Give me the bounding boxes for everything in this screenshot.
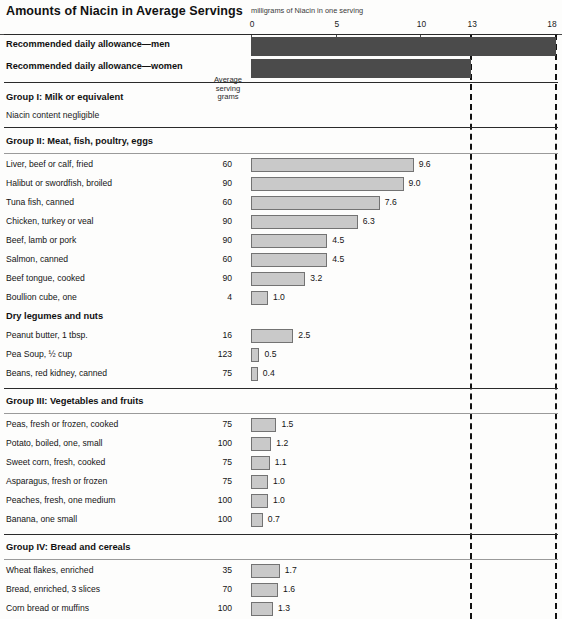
- rda-row: Recommended daily allowance—men: [0, 36, 562, 58]
- row-label: Liver, beef or calf, fried: [6, 159, 93, 169]
- row-bar: [251, 602, 273, 616]
- row-label: Beef, lamb or pork: [6, 235, 76, 245]
- group-heading: Group III: Vegetables and fruits: [6, 396, 143, 406]
- table-row: Beef tongue, cooked903.2: [0, 271, 562, 288]
- reference-line-13: [470, 34, 472, 619]
- row-value-label: 1.7: [285, 565, 297, 575]
- row-value-label: 0.4: [263, 368, 275, 378]
- row-label: Halibut or swordfish, broiled: [6, 178, 112, 188]
- row-value-label: 1.5: [281, 419, 293, 429]
- row-bar: [251, 456, 270, 470]
- table-row: Potato, boiled, one, small1001.2: [0, 436, 562, 453]
- row-value-label: 3.2: [310, 273, 322, 283]
- row-bar: [251, 196, 380, 210]
- row-value-label: 0.5: [264, 349, 276, 359]
- table-row: Banana, one small1000.7: [0, 512, 562, 529]
- axis-tick-label-5: 5: [334, 19, 339, 29]
- table-row: Pea Soup, ½ cup1230.5: [0, 347, 562, 364]
- row-label: Pea Soup, ½ cup: [6, 349, 72, 359]
- row-label: Chicken, turkey or veal: [6, 216, 93, 226]
- group-note: Niacin content negligible: [6, 110, 99, 120]
- row-serving-grams: 75: [188, 476, 232, 486]
- table-row: Liver, beef or calf, fried609.6: [0, 157, 562, 174]
- row-label: Boullion cube, one: [6, 292, 77, 302]
- row-label: Salmon, canned: [6, 254, 68, 264]
- row-label: Asparagus, fresh or frozen: [6, 476, 107, 486]
- row-serving-grams: 90: [188, 216, 232, 226]
- row-label: Wheat flakes, enriched: [6, 565, 93, 575]
- row-bar: [251, 215, 358, 229]
- table-row: Wheat flakes, enriched351.7: [0, 563, 562, 580]
- reference-line-18: [555, 34, 557, 619]
- rda-bar: [251, 59, 471, 78]
- row-label: Sweet corn, fresh, cooked: [6, 457, 105, 467]
- page-title: Amounts of Niacin in Average Servings: [6, 4, 243, 18]
- row-label: Tuna fish, canned: [6, 197, 74, 207]
- row-serving-grams: 100: [188, 603, 232, 613]
- rda-label: Recommended daily allowance—women: [6, 61, 183, 71]
- table-row: Tuna fish, canned607.6: [0, 195, 562, 212]
- row-value-label: 4.5: [332, 235, 344, 245]
- row-bar: [251, 348, 259, 362]
- separator-rule: [4, 153, 558, 154]
- row-serving-grams: 100: [188, 438, 232, 448]
- axis-tick-label-10: 10: [417, 19, 426, 29]
- row-value-label: 1.0: [273, 292, 285, 302]
- row-serving-grams: 60: [188, 159, 232, 169]
- row-bar: [251, 513, 263, 527]
- row-serving-grams: 123: [188, 349, 232, 359]
- separator-rule: [4, 82, 558, 83]
- axis-caption: milligrams of Niacin in one serving: [251, 6, 363, 15]
- row-bar: [251, 564, 280, 578]
- row-value-label: 1.0: [273, 476, 285, 486]
- row-serving-grams: 75: [188, 457, 232, 467]
- row-bar: [251, 475, 268, 489]
- row-bar: [251, 272, 305, 286]
- group-heading: Dry legumes and nuts: [6, 311, 103, 321]
- row-serving-grams: 16: [188, 330, 232, 340]
- row-serving-grams: 90: [188, 235, 232, 245]
- row-label: Corn bread or muffins: [6, 603, 89, 613]
- row-serving-grams: 90: [188, 273, 232, 283]
- table-row: Salmon, canned604.5: [0, 252, 562, 269]
- rda-row: Recommended daily allowance—women: [0, 58, 562, 80]
- row-label: Bread, enriched, 3 slices: [6, 584, 100, 594]
- row-bar: [251, 234, 327, 248]
- row-serving-grams: 75: [188, 419, 232, 429]
- row-value-label: 2.5: [298, 330, 310, 340]
- row-value-label: 1.0: [273, 495, 285, 505]
- row-bar: [251, 329, 293, 343]
- row-serving-grams: 100: [188, 514, 232, 524]
- row-label: Peaches, fresh, one medium: [6, 495, 115, 505]
- table-row: Halibut or swordfish, broiled909.0: [0, 176, 562, 193]
- rda-label: Recommended daily allowance—men: [6, 39, 170, 49]
- row-serving-grams: 75: [188, 368, 232, 378]
- row-value-label: 7.6: [385, 197, 397, 207]
- separator-rule: [4, 127, 558, 128]
- table-row: Beef, lamb or pork904.5: [0, 233, 562, 250]
- row-value-label: 4.5: [332, 254, 344, 264]
- separator-rule: [4, 34, 558, 35]
- group-heading: Group I: Milk or equivalent: [6, 92, 123, 102]
- separator-rule: [4, 559, 558, 560]
- row-value-label: 1.3: [278, 603, 290, 613]
- row-label: Banana, one small: [6, 514, 77, 524]
- table-row: Boullion cube, one41.0: [0, 290, 562, 307]
- row-serving-grams: 4: [188, 292, 232, 302]
- table-row: Peaches, fresh, one medium1001.0: [0, 493, 562, 510]
- axis-tick-label-0: 0: [250, 19, 255, 29]
- row-value-label: 1.2: [276, 438, 288, 448]
- row-serving-grams: 90: [188, 178, 232, 188]
- row-label: Beef tongue, cooked: [6, 273, 85, 283]
- row-bar: [251, 177, 404, 191]
- row-bar: [251, 367, 258, 381]
- row-serving-grams: 60: [188, 197, 232, 207]
- row-value-label: 1.6: [283, 584, 295, 594]
- row-label: Peas, fresh or frozen, cooked: [6, 419, 118, 429]
- separator-rule: [4, 388, 558, 389]
- row-value-label: 9.6: [419, 159, 431, 169]
- row-serving-grams: 60: [188, 254, 232, 264]
- row-value-label: 1.1: [275, 457, 287, 467]
- row-bar: [251, 437, 271, 451]
- row-serving-grams: 70: [188, 584, 232, 594]
